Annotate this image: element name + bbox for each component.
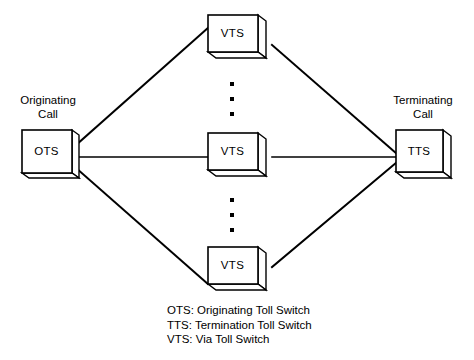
line-vts-top-to-tts	[272, 45, 396, 153]
tts-label: TTS	[395, 129, 443, 172]
ellipsis-dot	[230, 97, 234, 101]
vts-top-node[interactable]: VTS	[207, 14, 273, 66]
legend: OTS: Originating Toll Switch TTS: Termin…	[167, 303, 312, 347]
diagram-canvas: Originating Call OTS Terminating Call TT…	[0, 0, 474, 360]
legend-row-ots: OTS: Originating Toll Switch	[167, 303, 312, 318]
line-ots-to-vts-top	[76, 28, 208, 145]
vts-top-label: VTS	[207, 14, 258, 52]
vts-middle-label: VTS	[207, 132, 258, 170]
vts-middle-node[interactable]: VTS	[207, 132, 273, 184]
originating-caption-line2: Call	[10, 108, 86, 122]
terminating-call-caption: Terminating Call	[382, 94, 464, 121]
ellipsis-dot	[230, 112, 234, 116]
legend-row-tts: TTS: Termination Toll Switch	[167, 318, 312, 333]
terminating-caption-line1: Terminating	[382, 94, 464, 108]
tts-node[interactable]: TTS	[395, 129, 457, 186]
vts-bottom-node[interactable]: VTS	[207, 246, 273, 298]
originating-call-caption: Originating Call	[10, 94, 86, 121]
ellipsis-dot	[230, 198, 234, 202]
ellipsis-dot	[230, 82, 234, 86]
upper-ellipsis	[230, 82, 234, 116]
line-vts-bottom-to-tts	[272, 163, 396, 267]
lower-ellipsis	[230, 198, 234, 232]
line-ots-to-vts-bottom	[76, 168, 208, 284]
ots-node[interactable]: OTS	[21, 129, 85, 186]
ellipsis-dot	[230, 228, 234, 232]
originating-caption-line1: Originating	[10, 94, 86, 108]
legend-row-vts: VTS: Via Toll Switch	[167, 332, 312, 347]
terminating-caption-line2: Call	[382, 108, 464, 122]
ots-label: OTS	[21, 129, 72, 173]
vts-bottom-label: VTS	[207, 246, 258, 284]
ellipsis-dot	[230, 213, 234, 217]
